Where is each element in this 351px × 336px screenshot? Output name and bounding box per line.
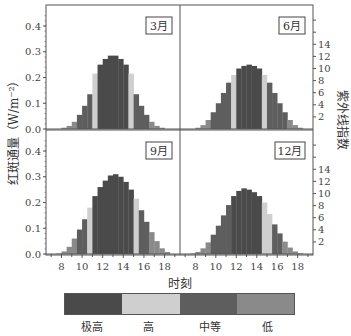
svg-text:6: 6 <box>318 87 324 98</box>
bar <box>211 112 216 129</box>
panel-label: 6月 <box>283 20 301 33</box>
svg-text:4: 4 <box>318 224 324 235</box>
bar <box>72 122 77 129</box>
bar <box>108 175 113 254</box>
bar <box>82 106 87 129</box>
svg-text:14: 14 <box>117 261 130 272</box>
svg-text:16: 16 <box>271 261 284 272</box>
bar <box>247 65 252 129</box>
svg-text:16: 16 <box>138 261 151 272</box>
svg-text:0.4: 0.4 <box>25 21 41 32</box>
bar <box>128 74 133 129</box>
legend-labels: 极高 高 中等 低 <box>64 318 295 334</box>
bar <box>206 242 211 254</box>
svg-text:14: 14 <box>250 261 263 272</box>
svg-text:8: 8 <box>318 75 324 86</box>
svg-text:12: 12 <box>230 261 243 272</box>
bar <box>252 192 257 254</box>
bar <box>236 191 241 254</box>
bar <box>103 59 108 129</box>
y-axis-label-right: 紫外线指数 <box>335 90 350 150</box>
bar <box>272 224 277 254</box>
bar <box>262 203 267 254</box>
bar <box>200 248 205 254</box>
svg-text:0.3: 0.3 <box>25 171 41 182</box>
legend-swatch-high <box>122 294 179 314</box>
bar <box>282 112 287 129</box>
bar <box>154 241 159 254</box>
bar <box>159 248 164 254</box>
bar <box>123 182 128 254</box>
bar <box>272 93 277 129</box>
x-axis-label: 时刻 <box>168 274 192 291</box>
bar <box>287 248 292 254</box>
bar <box>144 222 149 254</box>
svg-text:12: 12 <box>318 176 331 187</box>
bar <box>139 210 144 254</box>
y-axis-label-left: 红斑通量（W/m⁻²） <box>6 75 21 186</box>
bar <box>216 103 221 129</box>
bar <box>77 115 82 129</box>
bar <box>123 65 128 129</box>
bar <box>241 188 246 254</box>
panel-label: 3月 <box>150 20 168 33</box>
bar <box>231 75 236 129</box>
bar <box>103 181 108 254</box>
bar <box>226 205 231 254</box>
legend-label-low: 低 <box>262 318 273 334</box>
bar <box>67 247 72 254</box>
bar <box>262 75 267 129</box>
bar <box>108 56 113 129</box>
bar <box>82 219 87 254</box>
svg-text:18: 18 <box>291 261 304 272</box>
bar <box>92 74 97 129</box>
svg-text:0.3: 0.3 <box>25 46 41 57</box>
svg-text:0.1: 0.1 <box>25 223 41 234</box>
bar <box>134 94 139 129</box>
bar <box>257 69 262 130</box>
svg-text:10: 10 <box>76 261 89 272</box>
svg-text:0.2: 0.2 <box>25 72 41 83</box>
bar <box>128 190 133 254</box>
legend-label-high: 高 <box>143 318 154 334</box>
bar <box>216 226 221 254</box>
legend <box>64 293 295 315</box>
bar <box>118 59 123 129</box>
bar <box>113 174 118 254</box>
svg-text:12: 12 <box>318 51 331 62</box>
svg-text:8: 8 <box>318 200 324 211</box>
bar <box>113 56 118 129</box>
legend-label-moderate: 中等 <box>199 318 221 334</box>
svg-text:0.4: 0.4 <box>25 146 41 157</box>
panel-3: 9月0.00.10.20.30.481012141618 <box>25 141 180 272</box>
bar <box>277 103 282 129</box>
svg-text:18: 18 <box>158 261 171 272</box>
bar <box>134 199 139 254</box>
bar <box>221 215 226 254</box>
bar <box>287 120 292 129</box>
svg-text:8: 8 <box>58 261 64 272</box>
svg-text:0.1: 0.1 <box>25 98 41 109</box>
bar <box>257 196 262 254</box>
svg-text:12: 12 <box>96 261 109 272</box>
bar <box>98 65 103 129</box>
bar <box>139 106 144 129</box>
svg-text:14: 14 <box>318 164 331 175</box>
bar <box>149 122 154 129</box>
svg-text:10: 10 <box>209 261 222 272</box>
bar <box>267 83 272 129</box>
bar <box>144 115 149 129</box>
panel-label: 12月 <box>278 145 303 158</box>
legend-label-extreme: 极高 <box>81 318 103 334</box>
panel-2: 6月2468101214 <box>180 17 331 129</box>
panel-label: 9月 <box>150 145 168 158</box>
bar <box>211 235 216 254</box>
svg-text:6: 6 <box>318 212 324 223</box>
bar <box>92 196 97 254</box>
bar <box>252 66 257 129</box>
svg-text:0.2: 0.2 <box>25 197 41 208</box>
legend-swatch-moderate <box>180 294 237 314</box>
bar <box>72 239 77 254</box>
svg-text:0.0: 0.0 <box>25 249 41 260</box>
bar <box>293 125 298 129</box>
